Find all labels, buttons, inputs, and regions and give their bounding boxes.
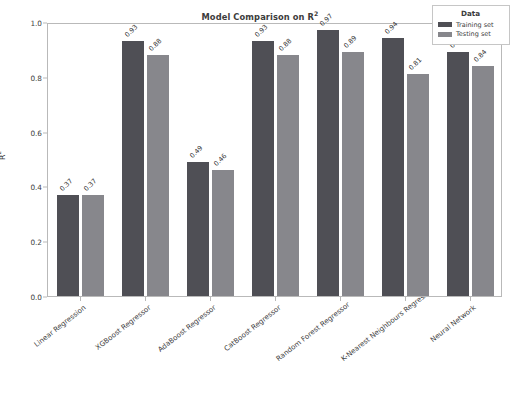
bar-value-label: 0.88 [148,37,164,53]
x-axis-tick-label: Random Forest Regressor [274,303,347,363]
x-axis-tick-label: Linear Regression [14,303,87,363]
bar [277,55,299,296]
chart-title-superscript: 2 [314,10,318,17]
bar [342,52,364,296]
bar [317,30,339,296]
bar-value-label: 0.49 [188,144,204,160]
legend-entry: Testing set [438,30,503,38]
y-axis-tick-label: 1.0 [0,19,42,28]
bar [82,195,104,296]
plot-area: 0.370.370.930.880.490.460.930.880.970.89… [47,23,502,297]
x-axis-tick-mark [145,297,146,301]
bar [447,52,469,296]
y-axis-tick-mark [43,23,47,24]
y-axis-label-text: R [0,155,7,160]
y-axis-label-superscript: 2 [0,151,2,155]
y-axis-tick-mark [43,297,47,298]
legend-title: Data [438,9,503,18]
legend-label: Training set [456,21,494,29]
x-axis-tick-mark [80,297,81,301]
x-axis-tick-label: Neural Network [404,303,477,363]
y-axis-tick-label: 0.2 [0,238,42,247]
bar [122,41,144,296]
x-axis-tick-mark [275,297,276,301]
y-axis-tick-mark [43,132,47,133]
bar-value-label: 0.94 [383,20,399,36]
bar-value-label: 0.81 [408,56,424,72]
x-axis-tick-label: CatBoost Regressor [209,303,282,363]
chart-title-text: Model Comparison on R [202,12,315,22]
bar-value-label: 0.89 [343,34,359,50]
bar [252,41,274,296]
y-axis-tick-label: 0.8 [0,73,42,82]
x-axis-tick-mark [470,297,471,301]
bar-value-label: 0.93 [253,23,269,39]
x-axis-tick-label: XGBoost Regressor [79,303,152,363]
x-axis-tick-mark [210,297,211,301]
bar [472,66,494,296]
bar-value-label: 0.37 [58,177,74,193]
bar [147,55,169,296]
y-axis-tick-mark [43,242,47,243]
bar-value-label: 0.46 [213,152,229,168]
bar-value-label: 0.93 [123,23,139,39]
legend-swatch [438,32,452,37]
y-axis-tick-mark [43,77,47,78]
bars-layer: 0.370.370.930.880.490.460.930.880.970.89… [48,24,501,296]
x-axis-tick-mark [340,297,341,301]
x-axis-tick-mark [405,297,406,301]
y-axis-tick-label: 0.0 [0,293,42,302]
bar [407,74,429,296]
y-axis-tick-label: 0.6 [0,128,42,137]
legend-swatch [438,22,452,27]
y-axis-tick-label: 0.4 [0,183,42,192]
legend-entries: Training setTesting set [438,21,503,39]
bar [212,170,234,296]
figure-canvas: Model Comparison on R2 R2 0.00.20.40.60.… [0,0,520,405]
bar [382,38,404,296]
legend-entry: Training set [438,21,503,29]
bar-value-label: 0.84 [473,48,489,64]
legend-label: Testing set [456,30,491,38]
x-axis-tick-label: AdaBoost Regressor [144,303,217,363]
y-axis-label: R2 [0,151,7,160]
bar-value-label: 0.88 [278,37,294,53]
y-axis-tick-mark [43,187,47,188]
x-axis-tick-label: K-Nearest Neighbours Regressor [339,303,412,363]
legend: Data Training setTesting set [432,5,510,45]
bar-value-label: 0.37 [83,177,99,193]
bar [187,162,209,296]
bar [57,195,79,296]
